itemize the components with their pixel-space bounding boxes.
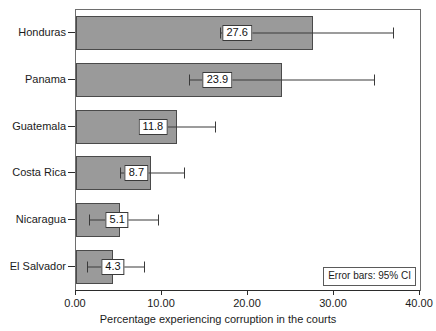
category-label-honduras: Honduras (18, 26, 66, 38)
value-label: 4.3 (101, 259, 124, 275)
x-axis-title: Percentage experiencing corruption in th… (0, 313, 436, 326)
category-label-panama: Panama (25, 73, 66, 85)
error-bar-cap-upper (393, 28, 394, 39)
error-bar-annotation: Error bars: 95% CI (323, 267, 416, 286)
x-axis-tick-label: 40.00 (405, 297, 433, 310)
category-label-guatemala: Guatemala (12, 120, 66, 132)
error-bar-cap-lower (220, 28, 221, 39)
error-bar-cap-upper (374, 75, 375, 86)
value-label: 5.1 (106, 212, 129, 228)
x-axis-tick-label: 30.00 (319, 297, 347, 310)
error-bar-cap-lower (189, 75, 190, 86)
x-axis-tick (161, 290, 162, 295)
category-tick (68, 126, 75, 127)
x-axis-tick-label: 10.00 (147, 297, 175, 310)
x-axis-tick (247, 290, 248, 295)
category-label-el-salvador: El Salvador (10, 260, 66, 272)
value-label: 8.7 (125, 165, 148, 181)
value-label: 23.9 (203, 72, 232, 88)
error-bar-cap-lower (120, 168, 121, 179)
category-axis: HondurasPanamaGuatemalaCosta RicaNicarag… (0, 0, 66, 331)
error-bar-cap-upper (215, 121, 216, 132)
bar-chart-figure: HondurasPanamaGuatemalaCosta RicaNicarag… (0, 0, 436, 331)
category-tick (68, 32, 75, 33)
plot-area: Error bars: 95% CI 27.623.911.88.75.14.3 (75, 9, 421, 291)
x-axis-tick (419, 290, 420, 295)
category-label-costa-rica: Costa Rica (12, 166, 66, 178)
x-axis-tick-label: 0.00 (64, 297, 85, 310)
category-tick (68, 266, 75, 267)
error-bar-cap-lower (89, 215, 90, 226)
x-axis-tick-label: 20.00 (233, 297, 261, 310)
category-tick (68, 172, 75, 173)
error-bar-cap-upper (144, 261, 145, 272)
error-bar-cap-upper (158, 215, 159, 226)
category-tick (68, 219, 75, 220)
error-bar-cap-lower (87, 261, 88, 272)
error-bar-cap-upper (184, 168, 185, 179)
category-label-nicaragua: Nicaragua (16, 213, 66, 225)
category-tick (68, 79, 75, 80)
x-axis-tick (75, 290, 76, 295)
x-axis-tick (333, 290, 334, 295)
value-label: 27.6 (222, 25, 251, 41)
value-label: 11.8 (139, 119, 168, 135)
